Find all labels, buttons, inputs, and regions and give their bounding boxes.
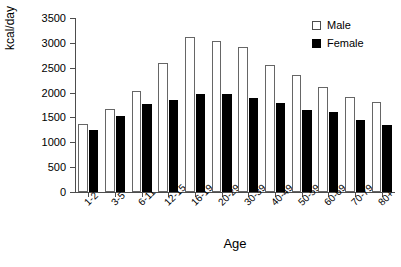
y-axis-tick-mark <box>70 117 75 118</box>
bar-female-1-2 <box>89 130 99 192</box>
bar-male-20-29 <box>212 41 222 192</box>
y-axis-tick-mark <box>70 142 75 143</box>
legend-swatch-icon <box>312 21 321 30</box>
bar-female-30-39 <box>249 98 259 192</box>
legend-label: Male <box>327 18 351 33</box>
y-axis-tick-label: 0 <box>8 184 66 200</box>
legend-swatch-icon <box>312 39 321 48</box>
bar-female-70-79 <box>356 120 366 192</box>
bar-female-50-59 <box>302 110 312 192</box>
legend-label: Female <box>327 36 364 51</box>
y-axis-tick-label: 500 <box>8 159 66 175</box>
bar-female-3-5 <box>116 116 126 192</box>
bar-male-3-5 <box>105 109 115 192</box>
bar-female-12-15 <box>169 100 179 192</box>
y-axis-tick-label: 3000 <box>8 35 66 51</box>
y-axis-tick-label: 1000 <box>8 134 66 150</box>
bar-chart: kcal/day 0500100015002000250030003500 1-… <box>0 0 401 267</box>
legend-item-female: Female <box>312 36 364 51</box>
bar-male-1-2 <box>78 124 88 192</box>
y-axis-tick-mark <box>70 93 75 94</box>
y-axis-tick-label: 1500 <box>8 109 66 125</box>
bar-female-6-11 <box>142 104 152 192</box>
bar-male-40-49 <box>265 65 275 192</box>
y-axis-tick-mark <box>70 18 75 19</box>
bar-male-6-11 <box>132 91 142 192</box>
bar-male-70-79 <box>345 97 355 192</box>
bar-male-80+ <box>372 102 382 192</box>
x-axis-label: Age <box>75 236 395 251</box>
y-axis-tick-mark <box>70 43 75 44</box>
bar-male-12-15 <box>158 63 168 192</box>
bar-female-60-69 <box>329 112 339 192</box>
y-axis-tick-mark <box>70 167 75 168</box>
legend-item-male: Male <box>312 18 364 33</box>
bar-female-20-29 <box>222 94 232 192</box>
bar-male-50-59 <box>292 75 302 192</box>
bar-male-30-39 <box>238 47 248 192</box>
y-axis-line <box>75 18 76 192</box>
y-axis-tick-mark <box>70 192 75 193</box>
y-axis-tick-label: 3500 <box>8 10 66 26</box>
chart-legend: MaleFemale <box>312 18 364 54</box>
bar-female-16-19 <box>196 94 206 192</box>
bar-male-60-69 <box>318 87 328 192</box>
bar-female-40-49 <box>276 103 286 192</box>
bar-female-80+ <box>382 125 392 192</box>
y-axis-tick-label: 2000 <box>8 85 66 101</box>
y-axis-tick-label: 2500 <box>8 60 66 76</box>
bar-male-16-19 <box>185 37 195 192</box>
y-axis-tick-mark <box>70 68 75 69</box>
